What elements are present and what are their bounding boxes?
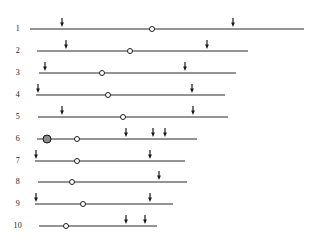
down-arrow-marker: [205, 40, 210, 49]
open-circle-marker: [74, 136, 80, 142]
timeline-line: [39, 226, 157, 227]
row-label: 4: [16, 91, 20, 99]
down-arrow-marker: [143, 215, 148, 224]
down-arrow-marker: [190, 84, 195, 93]
down-arrow-marker: [151, 128, 156, 137]
row-label: 2: [16, 47, 20, 55]
filled-circle-marker: [43, 135, 52, 144]
row-label: 1: [16, 25, 20, 33]
down-arrow-marker: [34, 193, 39, 202]
down-arrow-marker: [124, 215, 129, 224]
timeline-line: [39, 73, 236, 74]
down-arrow-marker: [43, 62, 48, 71]
down-arrow-marker: [163, 128, 168, 137]
open-circle-marker: [120, 114, 126, 120]
row-label: 9: [16, 200, 20, 208]
timeline-line: [35, 161, 185, 162]
down-arrow-marker: [36, 84, 41, 93]
down-arrow-marker: [183, 62, 188, 71]
timeline-line: [35, 204, 173, 205]
open-circle-marker: [80, 201, 86, 207]
down-arrow-marker: [64, 40, 69, 49]
down-arrow-marker: [157, 171, 162, 180]
timeline-line: [38, 117, 228, 118]
figure-canvas: 12345678910: [0, 0, 318, 241]
open-circle-marker: [63, 223, 69, 229]
open-circle-marker: [99, 70, 105, 76]
down-arrow-marker: [60, 18, 65, 27]
timeline-line: [38, 182, 187, 183]
timeline-line: [30, 29, 304, 30]
row-label: 7: [16, 157, 20, 165]
row-label: 8: [16, 178, 20, 186]
down-arrow-marker: [231, 18, 236, 27]
row-label: 3: [16, 69, 20, 77]
row-label: 10: [14, 222, 22, 230]
timeline-line: [36, 95, 225, 96]
down-arrow-marker: [34, 150, 39, 159]
row-label: 5: [16, 113, 20, 121]
timeline-line: [37, 51, 248, 52]
open-circle-marker: [105, 92, 111, 98]
row-label: 6: [16, 135, 20, 143]
down-arrow-marker: [148, 193, 153, 202]
timeline-line: [37, 139, 197, 140]
open-circle-marker: [149, 26, 155, 32]
down-arrow-marker: [191, 106, 196, 115]
open-circle-marker: [127, 48, 133, 54]
open-circle-marker: [69, 179, 75, 185]
down-arrow-marker: [60, 106, 65, 115]
down-arrow-marker: [148, 150, 153, 159]
open-circle-marker: [74, 158, 80, 164]
down-arrow-marker: [124, 128, 129, 137]
